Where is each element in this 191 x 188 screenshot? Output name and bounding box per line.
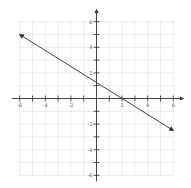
y-tick-label: 6 [89, 19, 92, 25]
x-tick-label: 4 [146, 102, 149, 108]
y-tick-label: -6 [88, 172, 93, 178]
axes [12, 10, 184, 182]
coordinate-plane-chart: -6-4-2246642-2-4-6 [0, 0, 191, 188]
y-tick-label: 2 [89, 70, 92, 76]
x-tick-label: -4 [43, 102, 48, 108]
y-tick-label: -4 [88, 147, 93, 153]
x-tick-label: 2 [121, 102, 124, 108]
x-tick-label: -2 [68, 102, 73, 108]
y-tick-label: -2 [88, 121, 93, 127]
x-tick-label: -6 [17, 102, 22, 108]
y-tick-label: 4 [89, 44, 92, 50]
x-tick-label: 6 [172, 102, 175, 108]
